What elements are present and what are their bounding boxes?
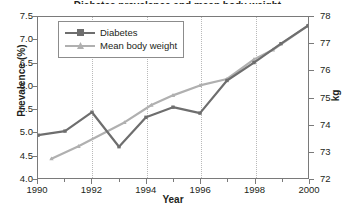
plot-area: Diabetes Mean body weight: [37, 16, 309, 179]
x-tickmark-minor: [282, 179, 283, 182]
x-tickmark-major: [255, 179, 256, 184]
y-right-tickmark: [309, 43, 314, 44]
legend-label-diabetes: Diabetes: [100, 28, 138, 38]
legend-item-diabetes: Diabetes: [65, 26, 177, 39]
y-left-tickmark: [32, 156, 37, 157]
y-left-tickmark: [32, 63, 37, 64]
chart-figure: Diabetes prevalence and mean body weight…: [0, 0, 355, 210]
y-left-tickmark: [32, 109, 37, 110]
legend-label-mean-body-weight: Mean body weight: [100, 41, 177, 51]
legend-swatch-diabetes: [65, 27, 95, 38]
x-axis-ticks: 199019921994199619982000: [0, 181, 355, 195]
y-axis-left-title: Prevalence (%): [16, 11, 27, 151]
x-tickmark-minor: [227, 179, 228, 182]
y-right-tickmark: [309, 70, 314, 71]
x-axis-title: Year: [37, 194, 309, 205]
chart-legend: Diabetes Mean body weight: [58, 21, 184, 58]
x-tickmark-minor: [64, 179, 65, 182]
legend-swatch-mean-body-weight: [65, 40, 95, 51]
legend-item-mean-body-weight: Mean body weight: [65, 39, 177, 52]
y-right-tickmark: [309, 152, 314, 153]
y-axis-right-title: kg: [330, 81, 341, 111]
y-right-tick-73: 73: [320, 147, 331, 157]
y-right-tickmark: [309, 125, 314, 126]
y-right-tick-74: 74: [320, 120, 331, 130]
y-right-tick-76: 76: [320, 65, 331, 75]
y-left-tickmark: [32, 86, 37, 87]
y-right-tickmark: [309, 16, 314, 17]
x-tickmark-major: [146, 179, 147, 184]
x-tickmark-major: [309, 179, 310, 184]
y-left-tickmark: [32, 39, 37, 40]
y-right-tick-78: 78: [320, 11, 331, 21]
x-tickmark-minor: [119, 179, 120, 182]
y-right-tickmark: [309, 98, 314, 99]
y-left-tickmark: [32, 132, 37, 133]
chart-title-clipped: Diabetes prevalence and mean body weight: [0, 0, 355, 4]
x-tickmark-major: [200, 179, 201, 184]
x-tickmark-major: [37, 179, 38, 184]
x-tickmark-major: [91, 179, 92, 184]
x-tickmark-minor: [173, 179, 174, 182]
y-right-tick-77: 77: [320, 38, 331, 48]
y-left-tickmark: [32, 16, 37, 17]
